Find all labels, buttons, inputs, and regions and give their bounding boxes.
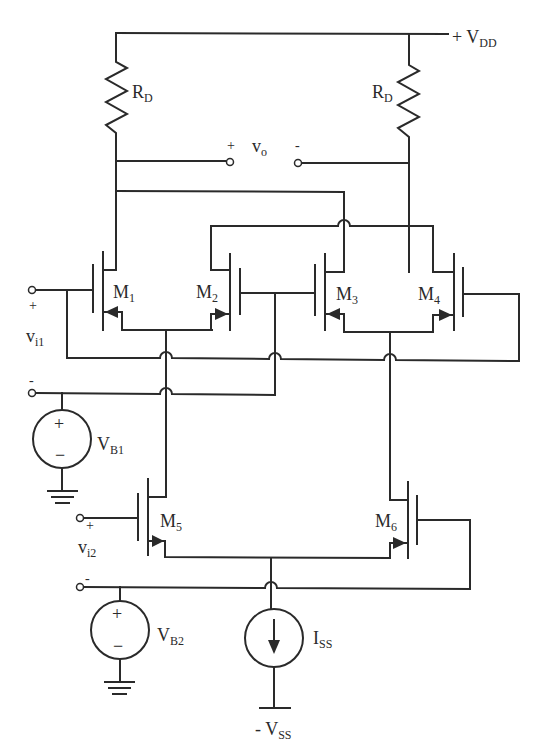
transistor-m3 [315,254,433,332]
transistor-m6 [390,482,470,589]
vdd-rail [116,33,448,34]
rd-right-label: RD [372,82,393,105]
vi1-plus-terminal[interactable] [29,287,36,294]
resistor-rd-left [106,33,127,190]
vb2-plus-sign: + [112,604,122,624]
current-source-iss [245,609,303,708]
vi1-minus-terminal[interactable] [29,390,36,397]
vo-plus-sign: + [227,138,235,153]
m5-label: M5 [160,511,182,534]
vo-minus-terminal[interactable] [295,160,302,167]
m3-label: M3 [336,284,358,307]
vi1-minus-sign: - [29,373,34,388]
vb2-minus-sign: − [113,636,123,656]
resistor-rd-right [398,34,419,272]
m2-label: M2 [196,282,218,305]
vi1-plus-sign: + [29,298,37,313]
vi1-label: vi1 [26,326,44,349]
vo-plus-terminal[interactable] [227,159,234,166]
vi2-minus-bus [84,582,470,589]
cross-wire-m2-m4 [211,220,433,270]
m1-label: M1 [113,282,135,305]
vi2-minus-terminal[interactable] [77,584,84,591]
m6-label: M6 [375,511,397,534]
vb1-plus-sign: + [54,414,64,434]
down-arrow-icon [268,640,280,654]
transistor-m1 [93,252,212,330]
vb1-label: VB1 [97,434,124,457]
vi2-minus-sign: - [85,571,90,586]
vb2-label: VB2 [157,625,184,648]
rd-left-label: RD [132,82,153,105]
iss-label: ISS [313,628,332,651]
output-vo [116,159,409,167]
vi2-plus-sign: + [86,518,94,533]
vdd-label: + VDD [452,27,497,50]
vo-label: vo [252,136,267,159]
m4-label: M4 [418,284,440,307]
vss-label: - VSS [255,719,292,742]
vi2-label: vi2 [78,537,96,560]
vi2-plus-terminal[interactable] [77,515,84,522]
m4-drain-wire [433,226,454,272]
vb1-minus-sign: − [55,445,65,465]
m1-drain-wire [103,190,116,270]
tail-m3m4-wire [390,332,408,500]
tail-m1m2-wire [148,330,166,497]
vo-minus-sign: - [295,138,300,153]
circuit-diagram: + VDD RD RD + vo - M1 M2 [0,0,558,756]
